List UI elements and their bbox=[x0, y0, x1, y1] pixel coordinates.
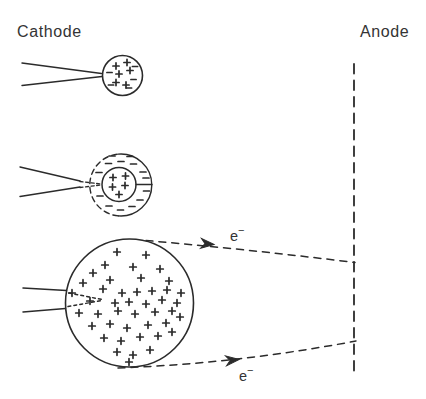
plus-charge-mark bbox=[124, 59, 130, 65]
plus-charge-mark bbox=[90, 270, 97, 277]
plus-charge-mark bbox=[157, 266, 164, 273]
stage2-cathode-bottom-edge bbox=[20, 187, 80, 197]
plus-charge-mark bbox=[114, 249, 121, 256]
plus-charge-mark bbox=[101, 335, 108, 342]
plus-charge-mark bbox=[169, 329, 176, 336]
plus-charge-mark bbox=[130, 264, 137, 271]
plus-charge-mark bbox=[115, 308, 122, 315]
plus-charge-mark bbox=[112, 300, 119, 307]
plus-charge-mark bbox=[178, 290, 185, 297]
plus-charge-mark bbox=[126, 359, 133, 366]
electron-arrow-top bbox=[201, 238, 215, 249]
plus-charge-mark bbox=[138, 275, 145, 282]
plus-charge-mark bbox=[69, 290, 76, 297]
plus-charge-mark bbox=[143, 252, 150, 259]
plus-charge-mark bbox=[143, 301, 150, 308]
plus-charge-mark bbox=[89, 323, 96, 330]
plus-charge-mark bbox=[107, 277, 114, 284]
electron-beam-top bbox=[146, 241, 355, 263]
plus-charge-mark bbox=[152, 309, 159, 316]
plus-charge-mark bbox=[80, 280, 87, 287]
diagram-shapes-layer bbox=[20, 56, 356, 372]
plus-charge-mark bbox=[132, 311, 139, 318]
plus-charge-mark bbox=[155, 333, 162, 340]
plus-charge-mark bbox=[134, 289, 141, 296]
plus-charge-mark bbox=[122, 173, 128, 179]
stage2-cathode-top-edge bbox=[20, 167, 80, 181]
plus-charge-mark bbox=[76, 310, 83, 317]
plus-charge-mark bbox=[127, 67, 133, 73]
plus-charge-mark bbox=[122, 182, 128, 188]
plus-charge-mark bbox=[137, 334, 144, 341]
plus-charge-mark bbox=[126, 299, 133, 306]
plus-charge-mark bbox=[149, 288, 156, 295]
stage1-plasma-ball bbox=[103, 56, 143, 96]
plus-charge-mark bbox=[116, 71, 122, 77]
stage3-cathode-bottom-edge bbox=[23, 309, 66, 313]
plus-charge-mark bbox=[174, 300, 181, 307]
plus-charge-mark bbox=[124, 325, 131, 332]
stage3-tip-dot-top bbox=[69, 293, 102, 300]
diagram-svg: Cathode Anode e− e− bbox=[0, 0, 426, 399]
stage2-tip-dash-bottom bbox=[80, 185, 101, 188]
plus-charge-mark bbox=[177, 314, 184, 321]
plus-charge-mark bbox=[100, 286, 107, 293]
plus-charge-mark bbox=[145, 322, 152, 329]
plus-charge-mark bbox=[102, 262, 109, 269]
plus-charge-mark bbox=[116, 191, 122, 197]
plus-charge-mark bbox=[169, 308, 176, 315]
plus-charge-mark bbox=[159, 297, 166, 304]
plus-charge-mark bbox=[147, 347, 154, 354]
plus-charge-mark bbox=[110, 174, 116, 180]
anode-label: Anode bbox=[360, 23, 409, 40]
discharge-diagram-figure: Cathode Anode e− e− bbox=[0, 0, 426, 399]
electron-beam-bottom bbox=[118, 341, 356, 368]
plus-charge-mark bbox=[163, 320, 170, 327]
stage3-tip-dot-bottom bbox=[68, 301, 102, 307]
plus-charge-mark bbox=[114, 349, 121, 356]
stage3-cathode-top-edge bbox=[23, 288, 67, 291]
plus-charge-mark bbox=[113, 63, 119, 69]
stage2-sheath-dashed-arc bbox=[90, 154, 119, 216]
plus-charge-mark bbox=[119, 290, 126, 297]
plus-charge-mark bbox=[164, 287, 171, 294]
plus-charge-mark bbox=[130, 352, 137, 359]
plus-charge-mark bbox=[109, 184, 115, 190]
plus-charge-mark bbox=[95, 311, 102, 318]
plus-charge-mark bbox=[118, 338, 125, 345]
plus-charge-mark bbox=[107, 321, 114, 328]
stage1-cathode-bottom-edge bbox=[22, 77, 102, 86]
electron-label-bottom: e− bbox=[239, 364, 254, 384]
stage1-cathode-top-edge bbox=[22, 63, 102, 74]
cathode-label: Cathode bbox=[17, 23, 82, 40]
electron-label-top: e− bbox=[230, 224, 245, 244]
plus-charge-mark bbox=[166, 278, 173, 285]
